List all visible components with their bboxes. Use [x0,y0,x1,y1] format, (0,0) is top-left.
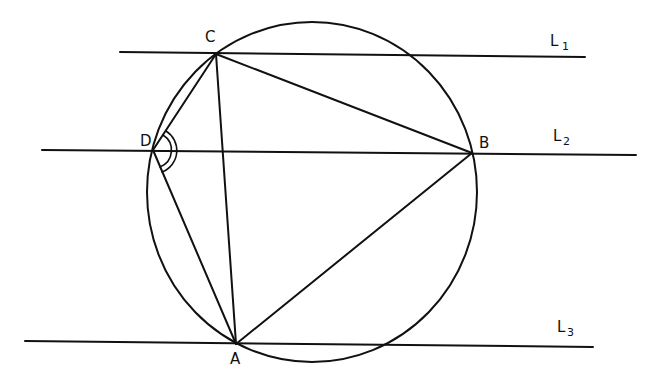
label-a: A [230,350,241,368]
line-l3 [25,341,593,347]
label-l3: L [557,318,566,336]
segment-cb [216,54,472,153]
segment-da [153,150,236,344]
line-l2 [42,150,636,155]
label-l2-sub: 2 [563,135,570,148]
label-l1-sub: 1 [562,40,569,53]
label-l2: L [553,127,562,145]
segment-cd [153,54,216,150]
geometry-diagram: C D B A L 1 L 2 L 3 [0,0,655,387]
label-l3-sub: 3 [567,326,574,339]
label-d: D [140,132,152,150]
label-c: C [205,28,215,46]
label-l1: L [550,32,559,50]
line-l1 [120,52,585,57]
label-b: B [479,134,489,152]
circumscribed-circle [147,22,477,362]
segment-ac [216,54,236,344]
segment-ba [236,153,472,344]
